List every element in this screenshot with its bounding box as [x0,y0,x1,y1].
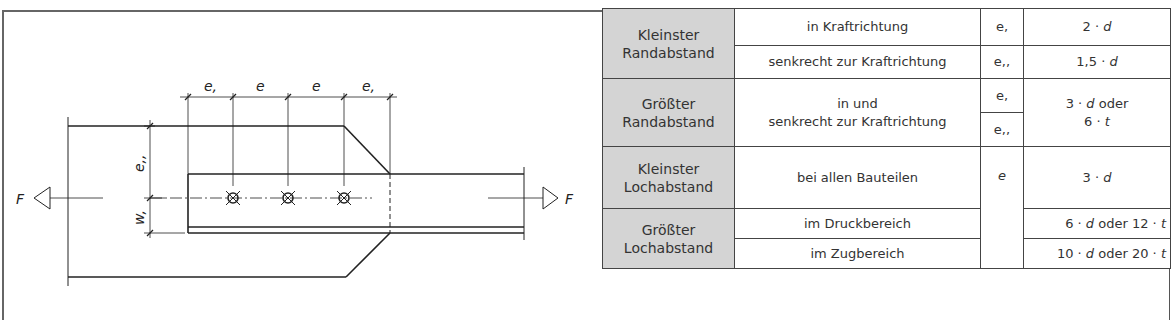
condition-cell: in undsenkrecht zur Kraftrichtung [735,79,981,147]
bolted-joint-diagram: F F e, e e e, e,, w, [0,0,600,308]
table-row: KleinsterRandabstand in Kraftrichtung e,… [603,9,1171,46]
dim-label-w1-vertical: w, [131,210,147,225]
dim-label-e-1: e [256,78,265,94]
table-row: KleinsterLochabstand bei allen Bauteilen… [603,147,1171,209]
condition-cell: bei allen Bauteilen [735,147,981,209]
table-row: GrößterRandabstand in undsenkrecht zur K… [603,79,1171,113]
symbol-cell: e,, [981,46,1024,79]
value-cell: 10 · d oder 20 · t [1024,239,1171,269]
value-cell: 6 · d oder 12 · t [1024,209,1171,239]
category-max-hole-spacing: GrößterLochabstand [603,209,735,269]
dim-label-e1-right: e, [362,78,375,94]
force-arrow-right-icon [543,187,558,209]
symbol-cell: e, [981,79,1024,113]
value-cell: 3 · d [1024,147,1171,209]
dim-label-e-2: e [312,78,321,94]
condition-cell: im Druckbereich [735,209,981,239]
condition-cell: im Zugbereich [735,239,981,269]
category-max-edge-distance: GrößterRandabstand [603,79,735,147]
condition-cell: senkrecht zur Kraftrichtung [735,46,981,79]
hole-3 [337,191,351,205]
force-arrow-left-icon [34,187,50,209]
category-min-hole-spacing: KleinsterLochabstand [603,147,735,209]
symbol-cell: e,, [981,113,1024,147]
spacing-table: KleinsterRandabstand in Kraftrichtung e,… [602,8,1171,269]
force-label-right: F [565,191,574,207]
dim-label-e1-left: e, [204,78,217,94]
dim-label-e2-vertical: e,, [131,154,147,172]
force-label-left: F [16,191,25,207]
value-cell: 2 · d [1024,9,1171,46]
value-cell: 1,5 · d [1024,46,1171,79]
hole-2 [281,191,295,205]
category-min-edge-distance: KleinsterRandabstand [603,9,735,79]
table-row: GrößterLochabstand im Druckbereich 6 · d… [603,209,1171,239]
symbol-cell: e, [981,9,1024,46]
value-cell: 3 · d oder6 · t [1024,79,1171,147]
hole-1 [226,191,240,205]
symbol-cell: e [981,147,1024,269]
condition-cell: in Kraftrichtung [735,9,981,46]
